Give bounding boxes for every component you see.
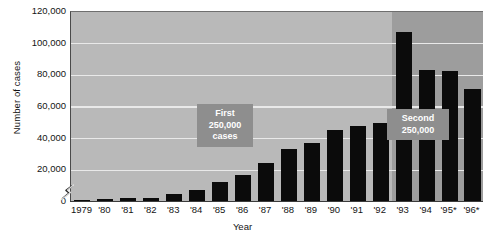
annotation-first-250k: First 250,000 cases	[197, 104, 253, 147]
y-tick-0: 0	[0, 196, 66, 206]
bar-91	[350, 126, 366, 201]
plot-area: First 250,000 cases Second 250,000	[70, 11, 483, 201]
y-tick-40000: 40,000	[0, 133, 66, 143]
y-tick-120000: 120,000	[0, 6, 66, 16]
y-tick-60000: 60,000	[0, 101, 66, 111]
annotation-second-250k: Second 250,000	[387, 109, 449, 140]
y-tick-80000: 80,000	[0, 69, 66, 79]
x-axis-title: Year	[0, 221, 485, 232]
x-tick-96: '96*	[454, 203, 485, 217]
x-axis-tick-labels: 1979'80'81'82'83'84'85'86'87'88'89'90'91…	[70, 203, 483, 219]
x-axis-line	[70, 201, 483, 203]
bar-89	[304, 143, 320, 201]
y-tick-100000: 100,000	[0, 38, 66, 48]
bar-85	[212, 182, 228, 201]
y-axis-tick-labels: 020,00040,00060,00080,000100,000120,000	[0, 0, 66, 243]
bars-layer	[71, 12, 483, 201]
bar-96	[464, 89, 480, 201]
bar-chart: Number of cases 020,00040,00060,00080,00…	[0, 0, 485, 243]
bar-90	[327, 130, 343, 201]
axis-break-icon	[59, 182, 79, 202]
bar-88	[281, 149, 297, 201]
y-tick-20000: 20,000	[0, 164, 66, 174]
bar-86	[235, 175, 251, 201]
bar-84	[189, 190, 205, 201]
bar-87	[258, 163, 274, 201]
